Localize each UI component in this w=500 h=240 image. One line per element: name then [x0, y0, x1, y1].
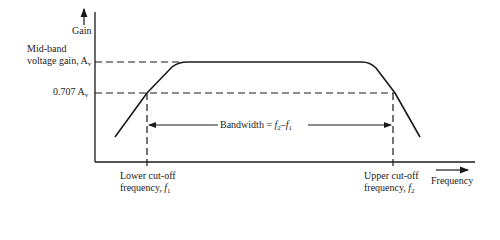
- x-axis-label: Frequency: [431, 175, 473, 187]
- bandwidth-label: Bandwidth = f2–f1: [220, 119, 292, 134]
- x-axis-label-text: Frequency: [431, 175, 473, 186]
- lower-cutoff-sub: 1: [167, 187, 171, 195]
- bandwidth-f1-sub: 1: [289, 124, 293, 132]
- upper-cutoff-label-2: frequency, f2: [364, 182, 415, 197]
- upper-cutoff-line1: Upper cut-off: [364, 170, 419, 181]
- upper-cutoff-sub: 2: [411, 187, 415, 195]
- midband-gain-label-2: voltage gain, Av: [27, 55, 91, 70]
- midband-gain-label: Mid-band: [27, 43, 66, 55]
- upper-cutoff-line2: frequency,: [364, 182, 408, 193]
- cutoff-level-sub: v: [85, 91, 89, 99]
- midband-label-sub: v: [88, 60, 92, 68]
- lower-cutoff-label-2: frequency, f1: [120, 182, 171, 197]
- y-axis-label: Gain: [72, 25, 91, 37]
- midband-label-line1: Mid-band: [27, 43, 66, 54]
- bandwidth-prefix: Bandwidth =: [220, 119, 275, 130]
- cutoff-level-text: 0.707 A: [53, 86, 85, 97]
- lower-cutoff-line2: frequency,: [120, 182, 164, 193]
- lower-cutoff-label: Lower cut-off: [120, 170, 176, 182]
- y-axis-label-text: Gain: [72, 25, 91, 36]
- cutoff-gain-label: 0.707 Av: [53, 86, 88, 101]
- upper-cutoff-label: Upper cut-off: [364, 170, 419, 182]
- midband-label-line2: voltage gain, A: [27, 55, 88, 66]
- lower-cutoff-line1: Lower cut-off: [120, 170, 176, 181]
